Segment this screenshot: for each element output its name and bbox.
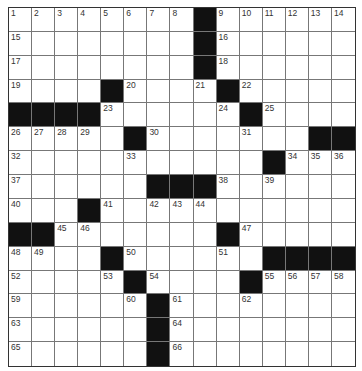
grid-cell[interactable]	[170, 80, 193, 104]
grid-cell[interactable]	[240, 32, 263, 56]
grid-cell[interactable]	[332, 342, 355, 366]
grid-cell[interactable]	[32, 151, 55, 175]
grid-cell[interactable]: 7	[147, 8, 170, 32]
grid-cell[interactable]	[194, 318, 217, 342]
grid-cell[interactable]	[332, 32, 355, 56]
grid-cell[interactable]: 41	[101, 199, 124, 223]
grid-cell[interactable]: 25	[263, 103, 286, 127]
grid-cell[interactable]: 38	[217, 175, 240, 199]
grid-cell[interactable]	[78, 151, 101, 175]
grid-cell[interactable]: 58	[332, 271, 355, 295]
grid-cell[interactable]: 5	[101, 8, 124, 32]
grid-cell[interactable]	[332, 103, 355, 127]
grid-cell[interactable]	[78, 32, 101, 56]
grid-cell[interactable]	[332, 294, 355, 318]
grid-cell[interactable]: 26	[9, 127, 32, 151]
grid-cell[interactable]	[286, 342, 309, 366]
grid-cell[interactable]: 1	[9, 8, 32, 32]
grid-cell[interactable]	[78, 175, 101, 199]
grid-cell[interactable]	[55, 247, 78, 271]
grid-cell[interactable]	[32, 80, 55, 104]
grid-cell[interactable]: 62	[240, 294, 263, 318]
grid-cell[interactable]: 51	[217, 247, 240, 271]
grid-cell[interactable]	[147, 247, 170, 271]
grid-cell[interactable]: 2	[32, 8, 55, 32]
grid-cell[interactable]: 18	[217, 56, 240, 80]
grid-cell[interactable]: 46	[78, 223, 101, 247]
grid-cell[interactable]	[170, 127, 193, 151]
grid-cell[interactable]: 4	[78, 8, 101, 32]
grid-cell[interactable]	[124, 342, 147, 366]
grid-cell[interactable]	[286, 80, 309, 104]
grid-cell[interactable]	[263, 199, 286, 223]
grid-cell[interactable]	[217, 318, 240, 342]
grid-cell[interactable]	[101, 127, 124, 151]
grid-cell[interactable]	[32, 271, 55, 295]
grid-cell[interactable]: 66	[170, 342, 193, 366]
grid-cell[interactable]: 53	[101, 271, 124, 295]
grid-cell[interactable]	[286, 294, 309, 318]
grid-cell[interactable]	[78, 56, 101, 80]
grid-cell[interactable]: 48	[9, 247, 32, 271]
grid-cell[interactable]	[101, 56, 124, 80]
grid-cell[interactable]: 37	[9, 175, 32, 199]
grid-cell[interactable]	[194, 247, 217, 271]
grid-cell[interactable]: 20	[124, 80, 147, 104]
grid-cell[interactable]	[124, 175, 147, 199]
grid-cell[interactable]	[332, 175, 355, 199]
grid-cell[interactable]: 60	[124, 294, 147, 318]
grid-cell[interactable]	[217, 199, 240, 223]
grid-cell[interactable]: 43	[170, 199, 193, 223]
grid-cell[interactable]	[147, 151, 170, 175]
grid-cell[interactable]: 59	[9, 294, 32, 318]
grid-cell[interactable]: 56	[286, 271, 309, 295]
grid-cell[interactable]: 31	[240, 127, 263, 151]
grid-cell[interactable]	[263, 294, 286, 318]
grid-cell[interactable]	[240, 199, 263, 223]
grid-cell[interactable]	[78, 80, 101, 104]
grid-cell[interactable]	[263, 127, 286, 151]
grid-cell[interactable]	[32, 294, 55, 318]
grid-cell[interactable]	[147, 223, 170, 247]
grid-cell[interactable]: 16	[217, 32, 240, 56]
grid-cell[interactable]	[78, 271, 101, 295]
grid-cell[interactable]	[170, 56, 193, 80]
grid-cell[interactable]	[286, 127, 309, 151]
grid-cell[interactable]: 50	[124, 247, 147, 271]
grid-cell[interactable]	[124, 199, 147, 223]
grid-cell[interactable]	[217, 294, 240, 318]
grid-cell[interactable]	[55, 80, 78, 104]
grid-cell[interactable]	[101, 151, 124, 175]
grid-cell[interactable]	[309, 175, 332, 199]
grid-cell[interactable]	[55, 271, 78, 295]
grid-cell[interactable]	[217, 127, 240, 151]
grid-cell[interactable]: 63	[9, 318, 32, 342]
grid-cell[interactable]: 21	[194, 80, 217, 104]
grid-cell[interactable]	[309, 199, 332, 223]
grid-cell[interactable]	[78, 294, 101, 318]
grid-cell[interactable]	[147, 80, 170, 104]
grid-cell[interactable]	[170, 151, 193, 175]
grid-cell[interactable]	[55, 318, 78, 342]
grid-cell[interactable]	[101, 342, 124, 366]
grid-cell[interactable]	[194, 103, 217, 127]
grid-cell[interactable]	[309, 318, 332, 342]
grid-cell[interactable]	[332, 223, 355, 247]
grid-cell[interactable]	[240, 175, 263, 199]
grid-cell[interactable]: 6	[124, 8, 147, 32]
grid-cell[interactable]	[263, 318, 286, 342]
grid-cell[interactable]: 47	[240, 223, 263, 247]
grid-cell[interactable]: 28	[55, 127, 78, 151]
grid-cell[interactable]: 39	[263, 175, 286, 199]
grid-cell[interactable]: 29	[78, 127, 101, 151]
grid-cell[interactable]: 65	[9, 342, 32, 366]
grid-cell[interactable]: 54	[147, 271, 170, 295]
grid-cell[interactable]	[78, 318, 101, 342]
grid-cell[interactable]	[170, 271, 193, 295]
grid-cell[interactable]	[32, 32, 55, 56]
grid-cell[interactable]	[286, 318, 309, 342]
grid-cell[interactable]	[32, 199, 55, 223]
grid-cell[interactable]	[124, 56, 147, 80]
grid-cell[interactable]	[55, 32, 78, 56]
grid-cell[interactable]	[309, 223, 332, 247]
